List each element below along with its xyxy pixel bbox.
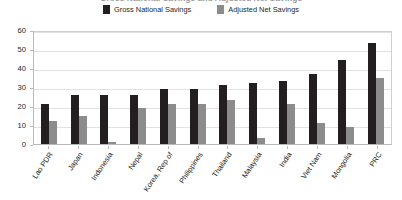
bar [249, 83, 257, 144]
bar [49, 121, 57, 144]
x-axis-tick-label: Japan [67, 151, 85, 172]
bar [257, 138, 265, 144]
y-axis-tick-label: 60 [18, 27, 26, 35]
x-axis-tick-label: India [278, 151, 294, 169]
bar [376, 78, 384, 145]
bar-series-container [34, 32, 391, 144]
bar [71, 95, 79, 144]
bar-group [368, 32, 384, 144]
bar [309, 74, 317, 144]
x-axis-category: Indonesia [93, 146, 123, 200]
x-axis-category: Thailand [213, 146, 243, 200]
x-axis-tick-mark [317, 146, 318, 149]
bar [130, 95, 138, 144]
y-axis-tick-label: 40 [18, 65, 26, 73]
x-axis-tick-label: Indonesia [90, 151, 115, 182]
bar-group [279, 32, 295, 144]
x-axis-tick-mark [377, 146, 378, 149]
bar [317, 123, 325, 144]
bar-chart: Gross National Savings and Adjusted Net … [0, 0, 402, 200]
x-axis-category: Japan [63, 146, 93, 200]
bar [108, 142, 116, 144]
legend-swatch-gross-national-savings [103, 5, 110, 14]
chart-title: Gross National Savings and Adjusted Net … [0, 0, 402, 3]
bar [287, 104, 295, 144]
bar-group [41, 32, 57, 144]
bar-group [71, 32, 87, 144]
x-axis-tick-label: Mongolia [330, 151, 353, 180]
chart-legend: Gross National Savings Adjusted Net Savi… [0, 5, 402, 14]
x-axis: Lao PDRJapanIndonesiaNepalKorea, Rep ofP… [33, 146, 392, 200]
x-axis-category: India [272, 146, 302, 200]
bar [279, 81, 287, 144]
x-axis-tick-label: PRC [368, 151, 383, 168]
plot-area [33, 31, 392, 145]
bar [190, 89, 198, 144]
x-axis-tick-label: Lao PDR [31, 151, 54, 180]
bar [41, 104, 49, 144]
x-axis-tick-label: Viet Nam [300, 151, 324, 181]
bar-group [249, 32, 265, 144]
x-axis-category: Philippines [183, 146, 213, 200]
bar [168, 104, 176, 144]
x-axis-tick-label: Malaysia [241, 151, 264, 180]
x-axis-category: Korea, Rep of [153, 146, 183, 200]
y-axis-tick-label: 10 [18, 122, 26, 130]
y-axis-tick-label: 20 [18, 103, 26, 111]
y-axis-tick-label: 30 [18, 84, 26, 92]
bar-group [160, 32, 176, 144]
legend-swatch-adjusted-net-savings [217, 5, 224, 14]
bar-group [100, 32, 116, 144]
x-axis-tick-label: Nepal [127, 151, 144, 171]
x-axis-tick-mark [287, 146, 288, 149]
bar [160, 89, 168, 144]
x-axis-tick-mark [108, 146, 109, 149]
x-axis-category: PRC [362, 146, 392, 200]
legend-item-gross-national-savings: Gross National Savings [103, 5, 191, 14]
legend-label-gross-national-savings: Gross National Savings [114, 5, 191, 14]
x-axis-category: Lao PDR [33, 146, 63, 200]
bar-group [190, 32, 206, 144]
x-axis-category: Mongolia [332, 146, 362, 200]
y-axis-tick-label: 50 [18, 46, 26, 54]
bar [79, 116, 87, 145]
legend-item-adjusted-net-savings: Adjusted Net Savings [217, 5, 299, 14]
bar-group [130, 32, 146, 144]
bar-group [338, 32, 354, 144]
x-axis-tick-mark [138, 146, 139, 149]
bar [346, 127, 354, 144]
x-axis-tick-mark [257, 146, 258, 149]
x-axis-tick-label: Thailand [212, 151, 234, 179]
bar [338, 60, 346, 144]
x-axis-tick-mark [48, 146, 49, 149]
legend-label-adjusted-net-savings: Adjusted Net Savings [228, 5, 299, 14]
bar [138, 108, 146, 144]
x-axis-category: Malaysia [242, 146, 272, 200]
x-axis-tick-mark [78, 146, 79, 149]
bar [198, 104, 206, 144]
bar-group [309, 32, 325, 144]
x-axis-tick-mark [198, 146, 199, 149]
x-axis-tick-mark [227, 146, 228, 149]
bar [100, 95, 108, 144]
x-axis-tick-mark [347, 146, 348, 149]
bar [227, 100, 235, 144]
bar [368, 43, 376, 144]
x-axis-category: Viet Nam [302, 146, 332, 200]
x-axis-tick-mark [168, 146, 169, 149]
bar [219, 85, 227, 144]
y-axis-tick-label: 0 [22, 141, 26, 149]
bar-group [219, 32, 235, 144]
y-axis: 0102030405060 [0, 31, 33, 145]
